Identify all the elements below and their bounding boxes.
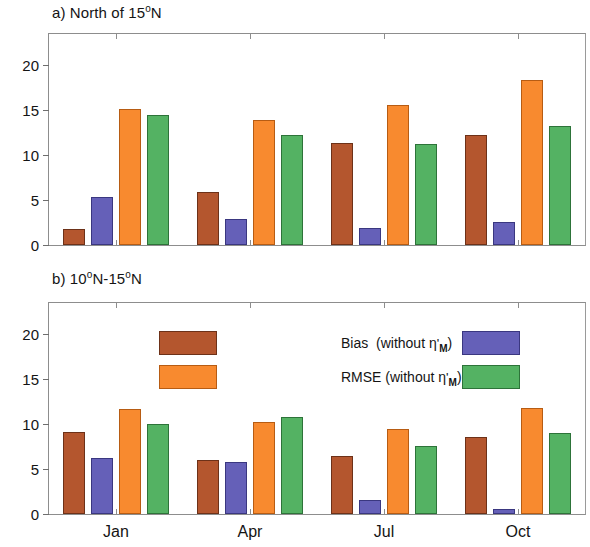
legend-swatch-rmse-with (462, 365, 520, 389)
legend-label-bias-without: Bias (without η'M) (327, 335, 452, 351)
panel-b-xtick-top-apr (250, 303, 251, 308)
panel-b-ytick-10 (43, 424, 49, 425)
bar-a-jul-bias-without (331, 143, 354, 245)
panel-a-xtick-bottom-oct (518, 240, 519, 245)
panel-b-ylabel-10: 10 (22, 417, 39, 432)
bar-a-jul-rmse-with (415, 144, 438, 245)
bar-b-oct-rmse-without (521, 408, 544, 514)
bar-a-apr-rmse-with (281, 135, 304, 245)
bar-b-jan-rmse-without (119, 409, 142, 514)
panel-b-plot-area: 05101520 Bias (without η'M) Bias (with η… (48, 302, 586, 515)
panel-a-xtick-top-jan (116, 34, 117, 39)
panel-b: b) 10oN-15oN 05101520 Bias (without η'M)… (0, 268, 590, 547)
bar-b-jul-bias-with (359, 500, 382, 514)
panel-a-xtick-bottom-jan (116, 240, 117, 245)
panel-b-xtick-bottom-jan (116, 509, 117, 514)
legend-swatch-cell-rmse-with (462, 365, 590, 389)
bar-b-jul-rmse-without (387, 429, 410, 514)
bar-a-apr-rmse-without (253, 120, 276, 245)
panel-a-title-suffix: N (151, 4, 162, 21)
panel-a-xtick-bottom-apr (250, 240, 251, 245)
panel-a-xtick-bottom-jul (384, 240, 385, 245)
panel-a-plot-area: 05101520 (48, 33, 586, 246)
panel-b-xtick-bottom-oct (518, 509, 519, 514)
panel-a-ylabel-0: 0 (31, 238, 39, 253)
xlabel-jul: Jul (374, 523, 394, 541)
panel-b-ytick-0 (43, 514, 49, 515)
bar-b-jul-rmse-with (415, 446, 438, 514)
bar-a-jan-bias-without (63, 229, 86, 245)
panel-a-xtick-top-apr (250, 34, 251, 39)
legend-label-cell-bias-without: Bias (without η'M) (327, 335, 462, 351)
panel-a-title: a) North of 15oN (52, 4, 162, 21)
panel-a: a) North of 15oN 05101520 (0, 0, 590, 275)
bar-a-jul-rmse-without (387, 105, 410, 245)
bar-b-apr-bias-with (225, 462, 248, 514)
panel-a-xtick-top-oct (518, 34, 519, 39)
bar-a-oct-rmse-without (521, 80, 544, 245)
bar-b-jan-bias-without (63, 432, 86, 514)
bar-b-apr-rmse-with (281, 417, 304, 514)
legend-swatch-cell-bias-without (159, 331, 327, 355)
bar-b-jan-bias-with (91, 458, 114, 514)
panel-a-ytick-5 (43, 200, 49, 201)
panel-b-xtick-bottom-apr (250, 509, 251, 514)
panel-b-xtick-top-jan (116, 303, 117, 308)
legend-swatch-bias-without (159, 331, 217, 355)
panel-b-xtick-top-jul (384, 303, 385, 308)
panel-b-ytick-20 (43, 334, 49, 335)
bar-b-apr-bias-without (197, 460, 220, 514)
panel-b-ytick-15 (43, 379, 49, 380)
panel-b-xtick-bottom-jul (384, 509, 385, 514)
panel-a-ylabel-10: 10 (22, 148, 39, 163)
panel-a-xtick-top-jul (384, 34, 385, 39)
panel-b-title-prefix: b) 10 (52, 270, 87, 287)
bar-a-oct-bias-without (465, 135, 488, 245)
bar-a-oct-bias-with (493, 222, 516, 245)
panel-b-ylabel-20: 20 (22, 327, 39, 342)
bar-a-jan-bias-with (91, 197, 114, 245)
panel-a-ytick-0 (43, 245, 49, 246)
panel-a-ylabel-5: 5 (31, 193, 39, 208)
panel-b-ylabel-15: 15 (22, 372, 39, 387)
panel-b-ylabel-0: 0 (31, 507, 39, 522)
panel-a-ytick-20 (43, 65, 49, 66)
bar-a-jan-rmse-with (147, 115, 170, 245)
panel-b-title-mid: N-15 (92, 270, 125, 287)
legend-swatch-cell-rmse-without (159, 365, 327, 389)
panel-a-ylabel-20: 20 (22, 58, 39, 73)
xlabel-oct: Oct (506, 523, 531, 541)
legend-swatch-rmse-without (159, 365, 217, 389)
bar-b-oct-bias-without (465, 437, 488, 514)
bar-a-jul-bias-with (359, 228, 382, 245)
bar-a-apr-bias-without (197, 192, 220, 245)
legend-swatch-cell-bias-with (462, 331, 590, 355)
panel-a-ytick-10 (43, 155, 49, 156)
panel-b-ytick-5 (43, 469, 49, 470)
figure-root: a) North of 15oN 05101520 b) 10oN-15oN 0… (0, 0, 590, 547)
bar-b-oct-rmse-with (549, 433, 572, 514)
bar-b-apr-rmse-without (253, 422, 276, 514)
bar-a-oct-rmse-with (549, 126, 572, 245)
legend-label-rmse-without: RMSE (without η'M) (327, 369, 462, 385)
panel-a-ylabel-15: 15 (22, 103, 39, 118)
panel-b-title: b) 10oN-15oN (52, 270, 142, 287)
panel-a-ytick-15 (43, 110, 49, 111)
panel-a-title-prefix: a) North of 15 (52, 4, 145, 21)
legend: Bias (without η'M) Bias (with η'M) RMSE … (159, 326, 590, 394)
legend-label-cell-rmse-without: RMSE (without η'M) (327, 369, 462, 385)
panel-b-title-suffix: N (131, 270, 142, 287)
bar-b-jan-rmse-with (147, 424, 170, 514)
xlabel-jan: Jan (103, 523, 129, 541)
bar-a-apr-bias-with (225, 219, 248, 245)
bar-b-oct-bias-with (493, 509, 516, 514)
xlabel-apr: Apr (238, 523, 263, 541)
bar-a-jan-rmse-without (119, 109, 142, 245)
legend-swatch-bias-with (462, 331, 520, 355)
bar-b-jul-bias-without (331, 456, 354, 514)
panel-b-ylabel-5: 5 (31, 462, 39, 477)
panel-b-xtick-top-oct (518, 303, 519, 308)
